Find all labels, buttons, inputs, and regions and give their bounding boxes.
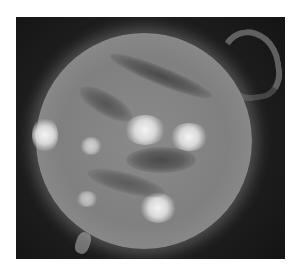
filament-left [75,79,138,128]
filament-center [126,147,196,173]
active-region-lower-left [76,191,98,207]
solar-disk [36,33,252,249]
active-region-left-mid [80,137,102,155]
sun-photo [16,17,285,259]
active-region-left [32,117,58,153]
active-region-center-right [170,123,208,151]
filament-upper [107,47,216,105]
active-region-lower [140,193,176,223]
